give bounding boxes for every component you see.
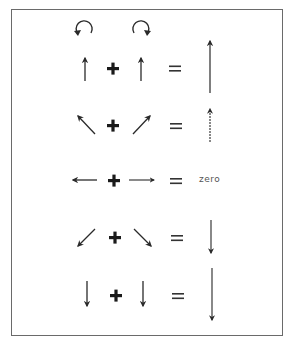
equals-icon (170, 123, 182, 129)
zero-label: zero (199, 174, 220, 184)
equals-icon (172, 293, 184, 299)
row-5 (87, 268, 212, 320)
clockwise-icon (133, 21, 151, 36)
counterclockwise-icon (74, 21, 92, 36)
row-2 (78, 109, 210, 142)
arrow-up-left-icon (78, 116, 95, 134)
equals-icon (171, 235, 183, 241)
row-1 (85, 41, 210, 93)
plus-icon (109, 232, 121, 244)
plus-icon (110, 290, 122, 302)
row-3 (73, 175, 182, 187)
arrow-down-right-icon (134, 229, 151, 246)
arrow-down-left-icon (78, 229, 95, 246)
equals-icon (169, 66, 181, 72)
plus-icon (107, 63, 119, 75)
row-4 (78, 220, 211, 253)
plus-icon (107, 120, 119, 132)
plus-icon (108, 175, 120, 187)
vector-addition-diagram (0, 0, 290, 342)
equals-icon (170, 178, 182, 184)
arrow-up-right-icon (133, 116, 150, 134)
